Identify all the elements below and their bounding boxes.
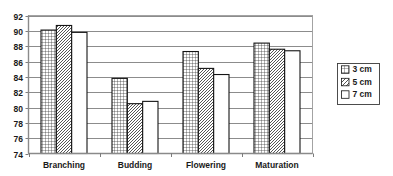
x-category-label-maturation: Maturation [255, 160, 298, 170]
bar-branching-5cm[interactable]: Branching · 5 cm · 90.7 [56, 25, 71, 153]
bar-budding-5cm[interactable]: Budding · 5 cm · 80.5 [127, 104, 142, 154]
bar-branching-7cm[interactable]: Branching · 7 cm · 89.8 [72, 32, 87, 153]
y-tick-label: 74 [14, 150, 24, 160]
grouped-bar-chart: 74767880828486889092 Branching · 3 cm · … [0, 0, 393, 176]
y-tick-label: 88 [14, 42, 24, 52]
bar-budding-3cm[interactable]: Budding · 3 cm · 83.8 [112, 78, 127, 153]
y-tick-label: 86 [14, 58, 24, 68]
bar-flowering-5cm[interactable]: Flowering · 5 cm · 85.1 [198, 68, 213, 153]
legend-swatch-3cm [342, 66, 350, 74]
bar-maturation-7cm[interactable]: Maturation · 7 cm · 87.4 [285, 51, 300, 154]
x-category-label-branching: Branching [43, 160, 85, 170]
legend-item-5cm[interactable]: 5 cm [342, 77, 373, 87]
legend-label-3cm: 3 cm [353, 64, 373, 74]
bar-flowering-3cm[interactable]: Flowering · 3 cm · 87.3 [183, 52, 198, 154]
chart-figure: 74767880828486889092 Branching · 3 cm · … [0, 0, 393, 176]
y-tick-label: 76 [14, 134, 24, 144]
y-tick-label: 80 [14, 104, 24, 114]
y-tick-label: 92 [14, 12, 24, 22]
y-tick-label: 82 [14, 88, 24, 98]
y-tick-label: 78 [14, 119, 24, 129]
y-tick-labels: 74767880828486889092 [14, 12, 24, 160]
legend-item-7cm[interactable]: 7 cm [342, 89, 373, 99]
bar-maturation-3cm[interactable]: Maturation · 3 cm · 88.4 [254, 43, 269, 153]
legend-item-3cm[interactable]: 3 cm [342, 64, 373, 74]
y-tick-label: 90 [14, 27, 24, 37]
bar-group-maturation: Maturation · 3 cm · 88.4Maturation · 5 c… [254, 43, 300, 153]
chart-legend: 3 cm5 cm7 cm [338, 64, 380, 105]
bar-group-branching: Branching · 3 cm · 90.1Branching · 5 cm … [41, 25, 87, 153]
legend-label-7cm: 7 cm [353, 89, 373, 99]
legend-swatch-7cm [342, 91, 350, 99]
bar-branching-3cm[interactable]: Branching · 3 cm · 90.1 [41, 30, 56, 153]
x-category-label-flowering: Flowering [186, 160, 226, 170]
bar-budding-7cm[interactable]: Budding · 7 cm · 80.8 [143, 101, 158, 153]
legend-swatch-5cm [342, 78, 350, 86]
category-labels: BranchingBuddingFloweringMaturation [43, 160, 299, 170]
legend-label-5cm: 5 cm [353, 77, 373, 87]
bar-flowering-7cm[interactable]: Flowering · 7 cm · 84.3 [214, 75, 229, 154]
x-category-label-budding: Budding [118, 160, 152, 170]
y-tick-label: 84 [14, 73, 24, 83]
bar-maturation-5cm[interactable]: Maturation · 5 cm · 87.6 [269, 49, 284, 153]
